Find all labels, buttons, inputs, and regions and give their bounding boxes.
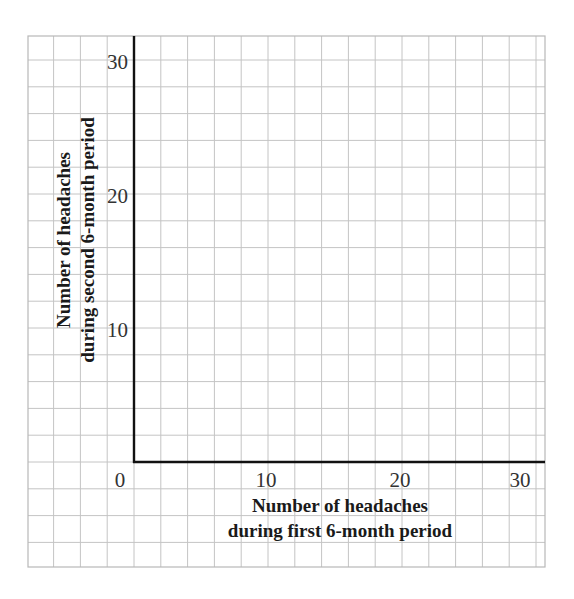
x-tick-label-0: 0 xyxy=(115,468,126,492)
y-tick-label-10: 10 xyxy=(107,318,128,342)
x-tick-label-10: 10 xyxy=(256,468,277,492)
x-tick-label-20: 20 xyxy=(390,468,411,492)
x-tick-label-30: 30 xyxy=(510,468,531,492)
graph-paper-grid xyxy=(28,36,545,567)
blank-scatter-grid-chart: 0 10 20 30 10 20 30 Number of headaches … xyxy=(0,0,574,599)
y-axis-title-line-1: Number of headaches xyxy=(53,152,74,328)
y-axis-title-line-2: during second 6-month period xyxy=(77,117,98,363)
x-axis-title-line-1: Number of headaches xyxy=(252,495,428,516)
y-tick-label-20: 20 xyxy=(107,184,128,208)
x-axis-title-line-2: during first 6-month period xyxy=(228,520,453,541)
y-tick-label-30: 30 xyxy=(107,50,128,74)
